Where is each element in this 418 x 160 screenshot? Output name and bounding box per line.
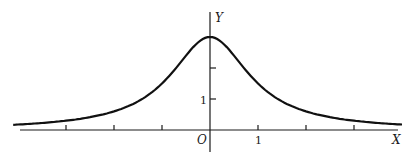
y-tick-label: 1 xyxy=(200,94,207,107)
y-ticks xyxy=(210,68,216,99)
x-axis-label: X xyxy=(391,133,401,147)
x-tick-label: 1 xyxy=(255,134,262,147)
curve xyxy=(13,37,402,125)
origin-label: O xyxy=(197,133,207,147)
y-axis-label: Y xyxy=(215,11,224,25)
figure-svg: Y X O 1 1 xyxy=(0,0,418,160)
bell-curve-figure: Y X O 1 1 xyxy=(0,0,418,160)
